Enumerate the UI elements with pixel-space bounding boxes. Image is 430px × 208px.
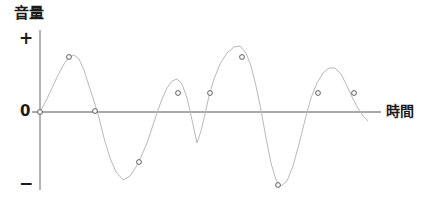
data-point-rise-2 [208, 91, 213, 96]
sound-wave-curve [40, 46, 368, 186]
data-point-zero-crossing-1 [93, 109, 98, 114]
x-axis-title: 時間 [386, 104, 414, 118]
data-point-peak-1 [67, 55, 72, 60]
data-point-rise-3 [316, 91, 321, 96]
data-point-peak-2 [176, 91, 181, 96]
y-tick-zero: 0 [20, 104, 30, 119]
y-axis-title: 音量 [14, 6, 44, 21]
data-point-trough-2 [276, 183, 281, 188]
y-tick-negative: − [19, 175, 33, 192]
data-point-origin [38, 110, 43, 115]
waveform-diagram: 音量 + 0 − 時間 [0, 0, 430, 208]
data-point-fall-3 [352, 91, 357, 96]
waveform-plot [0, 0, 430, 208]
y-tick-positive: + [19, 30, 33, 47]
data-point-peak-3 [240, 55, 245, 60]
data-point-trough-1-rise [137, 160, 142, 165]
